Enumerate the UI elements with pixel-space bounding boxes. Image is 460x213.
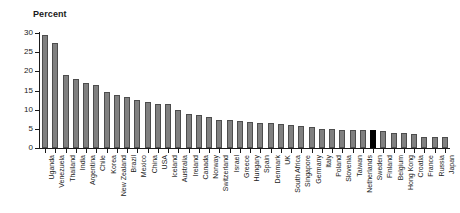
- x-tick-mark: [394, 149, 395, 153]
- y-tick-label-wrap: 20: [14, 67, 33, 75]
- x-tick-mark: [414, 149, 415, 153]
- x-tick-mark: [332, 149, 333, 153]
- y-tick-mark: [35, 33, 39, 34]
- x-category-label: Mexico: [140, 155, 147, 177]
- x-tick-mark: [76, 149, 77, 153]
- chart-title: Percent: [33, 9, 67, 19]
- bar: [186, 114, 192, 148]
- x-category-label: Netherlands: [366, 155, 373, 193]
- bar: [421, 137, 427, 149]
- x-tick-mark: [189, 149, 190, 153]
- x-tick-mark: [301, 149, 302, 153]
- y-tick-label: 5: [29, 125, 33, 133]
- x-category-label: Russia: [438, 155, 445, 176]
- bar: [175, 110, 181, 148]
- y-tick-mark: [35, 91, 39, 92]
- x-category-label: India: [79, 155, 86, 170]
- x-tick-mark: [281, 149, 282, 153]
- x-tick-mark: [66, 149, 67, 153]
- x-tick-mark: [148, 149, 149, 153]
- x-tick-mark: [107, 149, 108, 153]
- x-tick-mark: [291, 149, 292, 153]
- bar: [104, 92, 110, 148]
- y-tick-label: 10: [24, 106, 33, 114]
- x-tick-mark: [260, 149, 261, 153]
- x-category-label: USA: [161, 155, 168, 169]
- x-tick-mark: [250, 149, 251, 153]
- x-category-label: Venezuela: [58, 155, 65, 188]
- bar: [391, 133, 397, 148]
- bar: [216, 120, 222, 148]
- y-tick-label-wrap: 25: [14, 48, 33, 56]
- bar: [63, 75, 69, 148]
- x-tick-mark: [271, 149, 272, 153]
- x-category-label: UK: [284, 155, 291, 165]
- x-tick-mark: [424, 149, 425, 153]
- x-category-label: Hong Kong: [407, 155, 414, 190]
- y-tick-mark: [35, 52, 39, 53]
- x-category-label: Poland: [335, 155, 342, 177]
- x-tick-mark: [353, 149, 354, 153]
- y-tick-label-wrap: 10: [14, 106, 33, 114]
- bar: [42, 35, 48, 148]
- x-category-label: New Zealand: [120, 155, 127, 196]
- y-tick-label-wrap: 30: [14, 29, 33, 37]
- x-category-label: Finland: [386, 155, 393, 178]
- x-tick-mark: [230, 149, 231, 153]
- y-tick-label: 0: [29, 144, 33, 152]
- y-tick-mark: [35, 110, 39, 111]
- x-tick-mark: [86, 149, 87, 153]
- x-tick-mark: [45, 149, 46, 153]
- bar: [442, 137, 448, 148]
- x-category-label: Slovenia: [345, 155, 352, 182]
- bar: [114, 95, 120, 148]
- bar: [93, 85, 99, 148]
- bar: [380, 131, 386, 148]
- bar: [309, 127, 315, 148]
- x-tick-mark: [312, 149, 313, 153]
- x-category-label: Taiwan: [356, 155, 363, 177]
- y-tick-mark: [35, 148, 39, 149]
- x-tick-mark: [158, 149, 159, 153]
- bar: [350, 130, 356, 148]
- x-category-label: France: [427, 155, 434, 177]
- bar: [370, 130, 376, 148]
- x-tick-mark: [219, 149, 220, 153]
- x-category-label: Norway: [212, 155, 219, 179]
- x-tick-mark: [240, 149, 241, 153]
- x-category-label: Japan: [448, 155, 455, 174]
- bar: [329, 129, 335, 148]
- x-category-label: Iceland: [171, 155, 178, 178]
- x-category-label: Greece: [243, 155, 250, 178]
- y-tick-label: 15: [24, 87, 33, 95]
- bar: [288, 125, 294, 148]
- x-tick-mark: [55, 149, 56, 153]
- bar: [411, 134, 417, 148]
- bar: [237, 121, 243, 148]
- y-tick-label-wrap: 0: [14, 144, 33, 152]
- x-category-label: Hungary: [253, 155, 260, 181]
- bar: [278, 124, 284, 148]
- x-tick-mark: [168, 149, 169, 153]
- x-tick-mark: [404, 149, 405, 153]
- x-category-label: Israel: [233, 155, 240, 172]
- x-tick-mark: [435, 149, 436, 153]
- x-category-label: Italy: [325, 155, 332, 168]
- x-category-label: Ireland: [192, 155, 199, 176]
- x-category-label: China: [151, 155, 158, 173]
- bar: [298, 126, 304, 148]
- x-category-label: South Africa: [294, 155, 301, 193]
- x-category-label: Singapore: [304, 155, 311, 187]
- bar: [196, 115, 202, 148]
- bar: [52, 43, 58, 148]
- bar: [432, 137, 438, 149]
- x-category-label: Germany: [315, 155, 322, 184]
- bar: [227, 120, 233, 148]
- bar: [257, 123, 263, 148]
- x-tick-mark: [137, 149, 138, 153]
- x-category-label: Spain: [263, 155, 270, 173]
- x-axis-line: [39, 148, 450, 149]
- bar: [360, 130, 366, 148]
- x-tick-mark: [363, 149, 364, 153]
- x-tick-mark: [199, 149, 200, 153]
